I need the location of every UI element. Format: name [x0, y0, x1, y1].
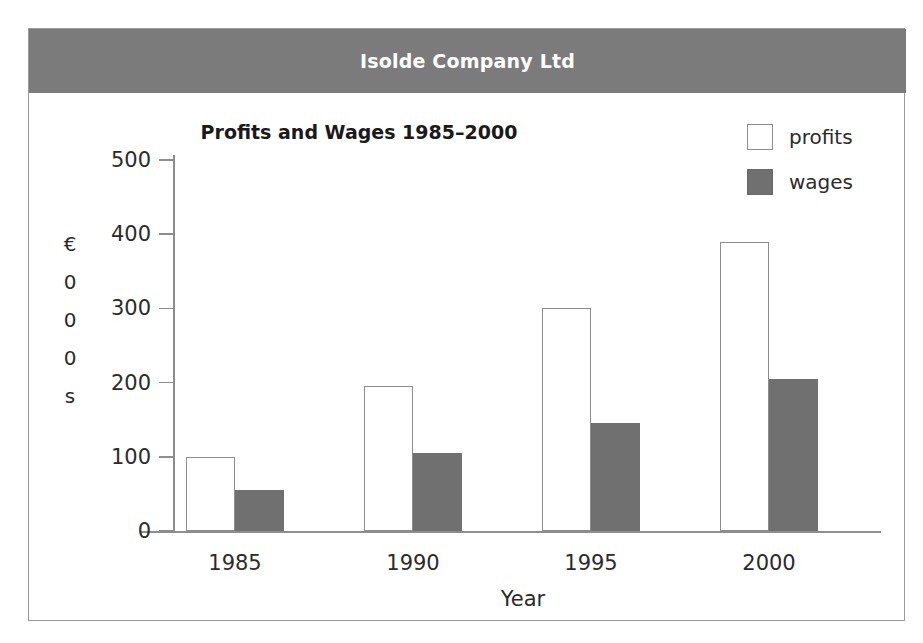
y-axis-title-char: 0: [55, 263, 85, 301]
bar-wages-1995: [591, 423, 640, 531]
x-axis-tick-label-1990: 1990: [343, 551, 483, 575]
y-axis-tick-label: 0: [85, 519, 151, 543]
bar-wages-2000: [769, 379, 818, 531]
bar-profits-1990: [364, 386, 413, 531]
bar-profits-1985: [186, 457, 235, 531]
y-axis-title-char: s: [55, 377, 85, 415]
chart-figure-frame: Isolde Company Ltd Profits and Wages 198…: [28, 28, 905, 621]
y-axis-title-char: 0: [55, 339, 85, 377]
x-axis-tick-label-1995: 1995: [521, 551, 661, 575]
y-axis-tick-label: 500: [85, 148, 151, 172]
x-axis-line: [141, 531, 881, 533]
y-axis-title: €000s: [55, 225, 85, 415]
bar-profits-1995: [542, 308, 591, 531]
y-axis-tick-mark: [159, 308, 173, 310]
y-axis-line: [173, 155, 175, 532]
y-axis-tick-mark: [159, 159, 173, 161]
x-axis-title: Year: [173, 587, 873, 611]
x-axis-tick-label-1985: 1985: [165, 551, 305, 575]
y-axis-tick-mark: [159, 456, 173, 458]
y-axis-tick-mark: [159, 233, 173, 235]
bar-wages-1990: [413, 453, 462, 531]
y-axis-tick-mark: [159, 530, 173, 532]
plot-area: €000s 5004003002001000 1985199019952000 …: [29, 29, 906, 622]
bar-profits-2000: [720, 242, 769, 531]
x-axis-tick-label-2000: 2000: [699, 551, 839, 575]
y-axis-tick-label: 100: [85, 445, 151, 469]
y-axis-title-char: €: [55, 225, 85, 263]
y-axis-tick-label: 400: [85, 222, 151, 246]
bar-wages-1985: [235, 490, 284, 531]
y-axis-tick-label: 200: [85, 371, 151, 395]
y-axis-tick-label: 300: [85, 296, 151, 320]
y-axis-tick-mark: [159, 382, 173, 384]
y-axis-title-char: 0: [55, 301, 85, 339]
